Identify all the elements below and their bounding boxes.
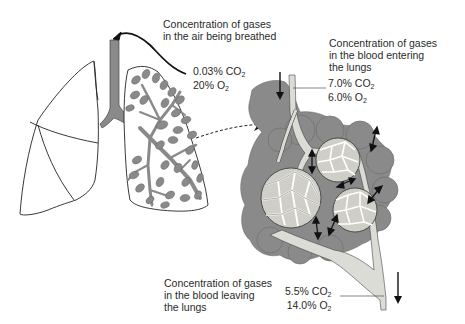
air-o2-sub: 2 (225, 85, 229, 92)
entering-label-line-3: the lungs (329, 61, 437, 73)
leaving-label-line-3: the lungs (164, 301, 272, 313)
air-o2-label: O (217, 79, 225, 91)
leaving-label-line-2: in the blood leaving (164, 289, 272, 301)
air-co2-value: 0.03% (193, 65, 223, 77)
leaving-o2-sub: 2 (328, 305, 332, 312)
leaving-values: 5.5% CO2 14.0% O2 (285, 286, 332, 314)
air-o2-value: 20% (193, 79, 214, 91)
label-blood-entering: Concentration of gases in the blood ente… (329, 37, 437, 73)
entering-o2-value: 6.0% (328, 91, 352, 103)
entering-label-line-2: in the blood entering (329, 49, 437, 61)
leaving-o2-value: 14.0% (287, 299, 317, 311)
entering-values: 7.0% CO2 6.0% O2 (328, 78, 375, 106)
air-co2-sub: 2 (241, 71, 245, 78)
entering-co2-label: CO (355, 77, 371, 89)
label-blood-leaving: Concentration of gases in the blood leav… (164, 277, 272, 313)
leaving-co2-value: 5.5% (285, 285, 309, 297)
leaving-co2-label: CO (312, 285, 328, 297)
label-air-breathed: Concentration of gases in the air being … (163, 18, 276, 42)
alveolus-bottom-right (333, 188, 377, 232)
alveolus-left (261, 168, 321, 228)
alveolus-top-right (316, 138, 360, 182)
entering-co2-value: 7.0% (328, 77, 352, 89)
left-lung (20, 61, 98, 215)
entering-o2-sub: 2 (363, 97, 367, 104)
entering-label-line-1: Concentration of gases (329, 37, 437, 49)
leaving-co2-sub: 2 (328, 291, 332, 298)
blood-out-arrow (394, 272, 402, 304)
air-label-line-2: in the air being breathed (163, 30, 276, 42)
air-label-line-1: Concentration of gases (163, 18, 276, 30)
entering-co2-sub: 2 (371, 83, 375, 90)
air-values: 0.03% CO2 20% O2 (193, 66, 245, 94)
leaving-label-line-1: Concentration of gases (164, 277, 272, 289)
alveoli-cluster (241, 75, 398, 310)
air-co2-label: CO (226, 65, 242, 77)
leaving-o2-label: O (319, 299, 327, 311)
entering-o2-label: O (355, 91, 363, 103)
